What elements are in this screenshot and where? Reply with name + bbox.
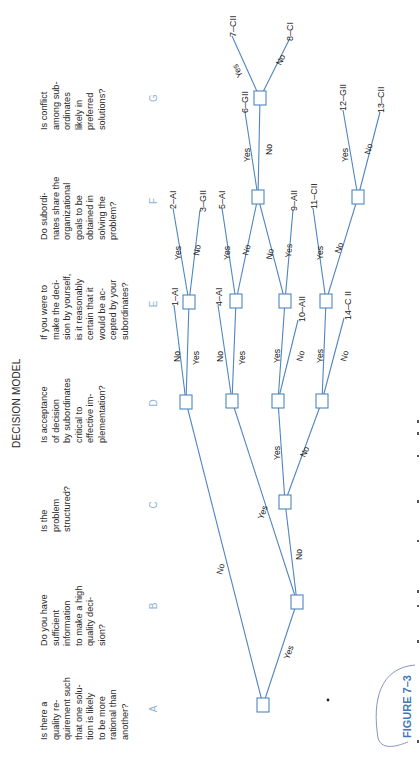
outcome-9: 9–AII [289,190,299,211]
outcome-12: 12–GII [338,84,348,111]
svg-text:No: No [298,444,312,458]
svg-text:problem?: problem? [108,202,118,240]
svg-text:Yes: Yes [315,246,325,260]
svg-text:Yes: Yes [222,246,232,260]
svg-text:Yes: Yes [315,349,325,363]
svg-text:rational than: rational than [108,689,118,740]
svg-text:No: No [264,248,276,261]
question-c: Is the problem structured? [39,486,72,532]
svg-text:likely in: likely in [74,100,84,130]
svg-text:Yes: Yes [340,148,350,162]
svg-text:Yes: Yes [191,351,201,365]
svg-text:make the deci-: make the deci- [51,280,61,340]
svg-text:No: No [274,52,288,66]
outcome-4: 4–AI [214,287,224,306]
svg-text:sufficient: sufficient [51,609,61,646]
column-letter-e: E [148,300,159,307]
question-f: Do subordi- nates share the organization… [39,177,118,240]
node-b [291,595,303,609]
svg-text:is it reasonably: is it reasonably [74,278,84,340]
decision-nodes [180,91,364,712]
outcome-2: 2–AI [168,190,178,209]
outcome-14: 14–C II [343,291,353,320]
outcome-8: 8–CI [285,22,295,41]
node-f2 [352,190,364,204]
svg-text:quirement such: quirement such [62,677,72,740]
node-e1 [183,295,195,309]
svg-text:No: No [362,142,375,155]
question-e: If you were to make the deci- sion by yo… [39,274,130,341]
outcome-7: 7–CII [228,15,238,37]
svg-text:obtained in: obtained in [85,195,95,240]
svg-text:No: No [172,351,182,362]
svg-text:effective im-: effective im- [85,394,95,443]
svg-text:goals to be: goals to be [74,195,84,240]
branch-labels: Yes No Yes No Yes No No Yes No Yes Yes N… [172,52,375,660]
outcome-5: 5–AI [217,190,227,209]
svg-text:If you were to: If you were to [39,285,49,340]
outcome-10: 10–AII [297,296,307,322]
outcome-13: 13–CII [376,86,386,113]
svg-text:another?: another? [120,704,130,740]
svg-text:Do subordi-: Do subordi- [39,193,49,241]
svg-text:Yes: Yes [272,349,282,363]
svg-text:Yes: Yes [242,148,252,162]
svg-text:to make a high: to make a high [74,586,84,646]
node-d2 [226,394,238,408]
outcome-3: 3–GII [198,190,208,212]
svg-text:Yes: Yes [230,62,245,79]
svg-text:No: No [264,144,274,155]
decision-model-diagram: DECISION MODEL Is there a quality re- qu… [0,0,420,765]
svg-text:certain that it: certain that it [85,287,95,340]
svg-text:preferred: preferred [85,93,95,130]
question-d: Is acceptance of decision by subordinate… [39,378,107,443]
svg-text:subordinates?: subordinates? [120,282,130,340]
question-g: Is conflict among sub- ordinates likely … [39,81,107,130]
svg-text:No: No [214,562,227,575]
svg-text:nates share the: nates share the [51,177,61,240]
svg-text:to be more: to be more [97,696,107,740]
node-e4 [320,294,332,308]
question-b: Do you have sufficient information to ma… [39,586,107,646]
node-d3 [272,394,284,408]
svg-text:No: No [338,349,351,362]
svg-text:Is conflict: Is conflict [39,91,49,130]
svg-text:would be ac-: would be ac- [97,288,107,341]
outcome-6: 6–GII [240,91,250,113]
column-letter-c: C [148,501,159,508]
column-letter-a: A [148,705,159,712]
svg-text:Yes: Yes [255,504,269,521]
outcome-1: 1–AI [170,287,180,306]
figure-label: FIGURE 7–3 [401,675,413,738]
column-letter-g: G [148,94,159,102]
column-letter-f: F [148,198,159,204]
node-g [254,91,266,105]
svg-text:No: No [215,351,225,362]
edges [173,36,380,705]
node-c [279,495,291,509]
svg-text:of decision: of decision [51,399,61,443]
column-letter-b: B [148,602,159,609]
svg-text:sion by yourself,: sion by yourself, [62,274,72,340]
node-e2 [230,294,242,308]
svg-text:by subordinates: by subordinates [62,378,72,443]
svg-text:critical to: critical to [74,407,84,443]
svg-text:Yes: Yes [237,351,247,365]
svg-text:among sub-: among sub- [51,81,61,130]
node-f1 [252,190,264,204]
node-e3 [279,294,291,308]
stray-dot [327,699,330,702]
svg-text:Is acceptance: Is acceptance [39,386,49,443]
svg-text:No: No [191,244,203,257]
svg-text:Yes: Yes [272,446,282,460]
svg-text:ordinates: ordinates [62,92,72,130]
svg-text:quality re-: quality re- [51,700,61,740]
svg-text:organizational: organizational [62,183,72,240]
svg-text:that one solu-: that one solu- [74,684,84,740]
svg-text:solving the: solving the [97,196,107,240]
column-letter-d: D [148,399,159,406]
svg-text:Is there a: Is there a [39,701,49,740]
svg-text:Yes: Yes [173,246,183,260]
diagram-title: DECISION MODEL [11,358,22,448]
node-a [257,698,269,712]
